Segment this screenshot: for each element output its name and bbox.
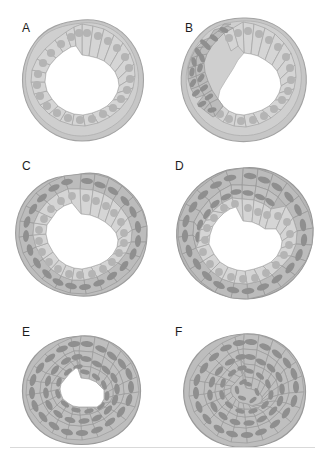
figure-separator-line — [10, 447, 315, 448]
panel-f: F — [163, 312, 325, 457]
panel-e-illustration — [0, 312, 163, 457]
figure-root: A — [0, 0, 325, 457]
panel-f-illustration — [163, 312, 325, 457]
panel-c-illustration — [0, 152, 163, 312]
panel-b-illustration — [163, 0, 325, 152]
panel-c: C — [0, 152, 163, 312]
panel-e: E — [0, 312, 163, 457]
panel-d-illustration — [163, 152, 325, 312]
panel-d: D — [163, 152, 325, 312]
panel-b: B — [163, 0, 325, 152]
panel-a: A — [0, 0, 163, 152]
panel-a-illustration — [0, 0, 163, 152]
